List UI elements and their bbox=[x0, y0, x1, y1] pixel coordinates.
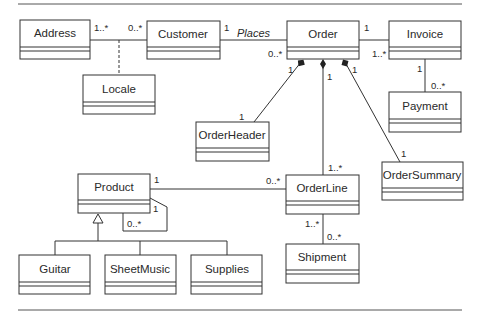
multiplicity: 1..* bbox=[305, 218, 320, 229]
class-address[interactable]: Address bbox=[20, 20, 90, 59]
multiplicity: 1 bbox=[364, 22, 369, 33]
class-supplies[interactable]: Supplies bbox=[191, 255, 262, 294]
class-name: Invoice bbox=[407, 28, 443, 40]
multiplicity: 0..* bbox=[127, 218, 142, 229]
class-payment[interactable]: Payment bbox=[389, 92, 461, 132]
uml-class-diagram: Address Customer Order Invoice Locale Pa… bbox=[0, 0, 481, 322]
class-guitar[interactable]: Guitar bbox=[19, 255, 90, 294]
generalization-arrow-icon bbox=[93, 214, 103, 223]
multiplicity: 0..* bbox=[268, 48, 283, 59]
multiplicity: 1 bbox=[401, 148, 406, 159]
class-name: Shipment bbox=[298, 251, 347, 263]
class-name: Supplies bbox=[205, 263, 249, 275]
class-sheetmusic[interactable]: SheetMusic bbox=[105, 255, 176, 294]
class-name: Guitar bbox=[39, 263, 70, 275]
multiplicity: 0..* bbox=[266, 175, 281, 186]
class-name: Customer bbox=[158, 28, 208, 40]
class-name: Address bbox=[34, 27, 76, 39]
class-name: OrderSummary bbox=[383, 169, 462, 181]
multiplicity: 1 bbox=[417, 63, 422, 74]
multiplicity: 1..* bbox=[372, 48, 387, 59]
class-orderline[interactable]: OrderLine bbox=[286, 175, 359, 214]
class-name: Order bbox=[308, 28, 338, 40]
multiplicity: 1 bbox=[352, 64, 357, 75]
multiplicity: 1 bbox=[154, 174, 159, 185]
class-shipment[interactable]: Shipment bbox=[286, 244, 359, 283]
composition-diamond-icon bbox=[320, 59, 326, 69]
class-customer[interactable]: Customer bbox=[147, 21, 220, 59]
multiplicity: 0..* bbox=[431, 80, 446, 91]
multiplicity: 1 bbox=[224, 22, 229, 33]
class-product[interactable]: Product bbox=[78, 174, 150, 213]
class-orderheader[interactable]: OrderHeader bbox=[196, 122, 269, 161]
class-invoice[interactable]: Invoice bbox=[389, 21, 461, 59]
multiplicity: 1 bbox=[239, 111, 244, 122]
class-name: OrderLine bbox=[296, 182, 347, 194]
multiplicity: 0..* bbox=[327, 231, 342, 242]
class-name: Payment bbox=[402, 100, 448, 112]
multiplicity: 1 bbox=[288, 64, 293, 75]
assoc-order-orderheader bbox=[254, 62, 301, 122]
class-locale[interactable]: Locale bbox=[83, 75, 155, 114]
class-ordersummary[interactable]: OrderSummary bbox=[382, 162, 463, 200]
multiplicity: 0..* bbox=[128, 22, 143, 33]
multiplicity: 1 bbox=[327, 71, 332, 82]
class-name: OrderHeader bbox=[198, 129, 265, 141]
class-order[interactable]: Order bbox=[287, 21, 359, 59]
association-label-places: Places bbox=[237, 27, 271, 39]
class-name: Locale bbox=[102, 83, 136, 95]
multiplicity: 1 bbox=[153, 203, 158, 214]
class-name: Product bbox=[94, 181, 134, 193]
class-name: SheetMusic bbox=[110, 263, 170, 275]
multiplicity: 1..* bbox=[94, 22, 109, 33]
multiplicity: 1..* bbox=[328, 162, 343, 173]
